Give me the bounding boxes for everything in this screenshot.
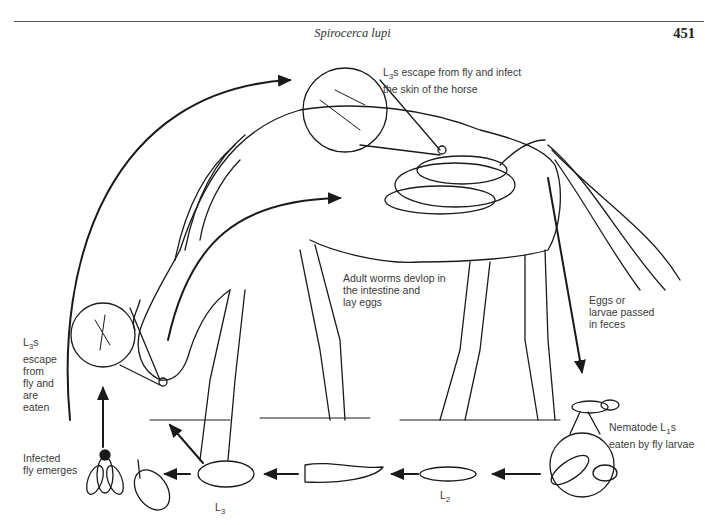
arrow-to-feces [548,178,582,372]
adult-fly [83,450,126,496]
label-nematode-l1: Nematode L1s eaten by fly larvae [609,421,694,450]
pupa [127,460,177,517]
mouth-magnifier [71,303,167,386]
label-fly-emerges: Infected fly emerges [23,452,77,476]
larva-l3 [198,461,254,487]
label-escape-eaten: L3s escape from fly and are eaten [23,336,57,413]
label-eggs-passed: Eggs or larvae passed in feces [589,294,654,330]
life-cycle-illustration [0,0,705,525]
arrow-l3-up [170,425,203,463]
label-adult-worms: Adult worms devlop in the intestine and … [343,272,446,308]
label-skin-infection: L3s escape from fly and infect the skin … [383,66,521,95]
larva-l2 [420,467,476,481]
label-stage-l3: L3 [215,501,225,518]
label-stage-l2: L2 [440,489,450,506]
larva-mid [305,464,383,483]
